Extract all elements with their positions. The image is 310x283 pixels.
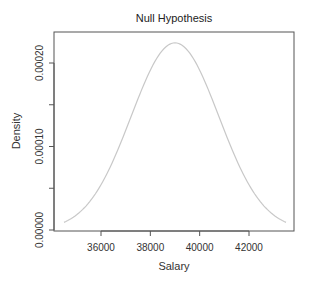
y-axis-label: Density [10,112,22,149]
y-axis: 0.000000.000100.00020 [34,44,54,248]
density-curve [64,43,286,222]
x-tick-label: 42000 [235,242,263,253]
y-tick-label: 0.00010 [34,128,45,165]
x-axis: 36000380004000042000 [87,231,263,253]
x-tick-label: 36000 [87,242,115,253]
x-axis-label: Salary [158,260,190,272]
y-tick-label: 0.00000 [34,211,45,248]
x-tick-label: 40000 [186,242,214,253]
density-chart: Null Hypothesis 36000380004000042000 0.0… [0,0,310,283]
chart-title: Null Hypothesis [136,12,213,24]
x-tick-label: 38000 [136,242,164,253]
y-tick-label: 0.00020 [34,44,45,81]
